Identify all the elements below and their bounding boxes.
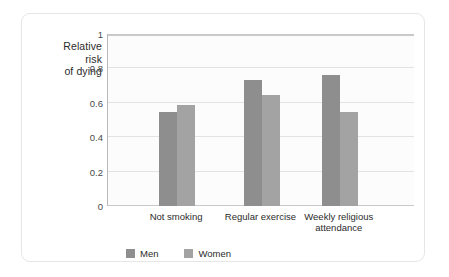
bar-men[interactable] — [322, 75, 340, 206]
x-axis-category-line: Weekly religious — [279, 211, 399, 222]
legend-label: Women — [198, 248, 231, 259]
bar-group — [159, 34, 195, 206]
bar-men[interactable] — [159, 112, 177, 206]
legend-label: Men — [140, 248, 158, 259]
y-axis-title-line-1: Relative — [30, 40, 102, 53]
y-axis-tick-label: 0 — [98, 201, 103, 212]
bar-women[interactable] — [177, 105, 195, 206]
chart-legend: MenWomen — [126, 248, 248, 259]
legend-swatch-icon — [126, 249, 135, 258]
y-axis-tick-label: 0.8 — [90, 63, 103, 74]
plot-canvas: 00.20.40.60.81 — [107, 34, 414, 206]
legend-item-men[interactable]: Men — [126, 248, 158, 259]
y-axis-tick-label: 0.6 — [90, 97, 103, 108]
y-axis-tick-label: 1 — [98, 29, 103, 40]
plot-area: 00.20.40.60.81 — [107, 34, 414, 206]
y-axis-tick-label: 0.4 — [90, 132, 103, 143]
bar-women[interactable] — [340, 112, 358, 206]
bar-women[interactable] — [262, 95, 280, 206]
x-axis-category-label: Weekly religiousattendance — [279, 211, 399, 233]
legend-swatch-icon — [184, 249, 193, 258]
x-axis-category-line: attendance — [279, 222, 399, 233]
bar-group — [244, 34, 280, 206]
chart-card: Relative risk of dying 00.20.40.60.81 Me… — [21, 13, 425, 262]
bar-men[interactable] — [244, 80, 262, 206]
y-axis-tick-label: 0.2 — [90, 166, 103, 177]
legend-item-women[interactable]: Women — [184, 248, 231, 259]
bar-group — [322, 34, 358, 206]
